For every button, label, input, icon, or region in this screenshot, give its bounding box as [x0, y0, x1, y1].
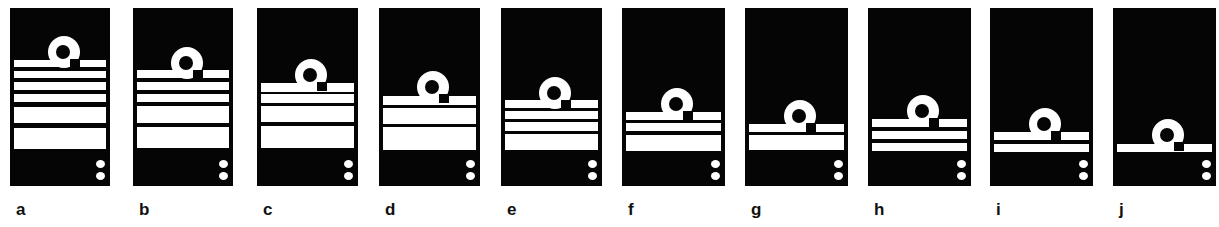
loop-notch: [929, 118, 939, 127]
stripe: [626, 135, 721, 151]
button-dot-icon: [219, 160, 228, 168]
panel-label: j: [1119, 200, 1124, 220]
button-dot-icon: [588, 160, 597, 168]
insignia-panel-f: [622, 8, 725, 186]
stripe: [137, 82, 229, 90]
loop-hole: [792, 109, 806, 123]
stripe: [505, 134, 598, 150]
loop-hole: [425, 80, 439, 94]
button-dot-icon: [1202, 160, 1211, 168]
loop-hole: [915, 104, 929, 118]
stripe: [872, 131, 967, 139]
button-dot-icon: [834, 172, 843, 180]
stripe: [383, 108, 476, 124]
loop-hole: [56, 45, 70, 59]
button-dot-icon: [834, 160, 843, 168]
loop-notch: [1174, 142, 1184, 151]
loop-icon: [295, 59, 327, 91]
button-dot-icon: [466, 172, 475, 180]
loop-icon: [661, 88, 693, 120]
stripe: [872, 143, 967, 151]
stripe: [505, 122, 598, 131]
button-dot-icon: [957, 172, 966, 180]
button-dot-icon: [96, 160, 105, 168]
button-dot-icon: [344, 160, 353, 168]
panel-label: h: [874, 200, 884, 220]
loop-notch: [70, 59, 80, 68]
panel-label: c: [263, 200, 272, 220]
insignia-panel-j: [1113, 8, 1216, 186]
stripe: [137, 94, 229, 102]
loop-notch: [439, 94, 449, 103]
panel-label: f: [628, 200, 634, 220]
insignia-panel-g: [745, 8, 848, 186]
stripe: [14, 82, 106, 90]
button-dot-icon: [1079, 160, 1088, 168]
panel-label: g: [751, 200, 761, 220]
stripe: [14, 128, 106, 149]
button-dot-icon: [344, 172, 353, 180]
loop-notch: [1051, 131, 1061, 140]
stripe: [137, 106, 229, 123]
button-dot-icon: [711, 160, 720, 168]
panel-label: d: [385, 200, 395, 220]
loop-notch: [193, 70, 203, 79]
loop-icon: [1029, 108, 1061, 140]
stripe: [261, 126, 354, 148]
stripe: [749, 135, 844, 150]
insignia-panel-c: [257, 8, 358, 186]
button-dot-icon: [711, 172, 720, 180]
stripe: [261, 106, 354, 122]
button-dot-icon: [1202, 172, 1211, 180]
loop-notch: [561, 100, 571, 109]
button-dot-icon: [957, 160, 966, 168]
button-dot-icon: [588, 172, 597, 180]
loop-icon: [784, 100, 816, 132]
stripe: [383, 127, 476, 150]
loop-icon: [171, 47, 203, 79]
button-dot-icon: [1079, 172, 1088, 180]
loop-icon: [1152, 119, 1184, 151]
panel-label: a: [16, 200, 25, 220]
loop-hole: [547, 86, 561, 100]
button-dot-icon: [219, 172, 228, 180]
stripe: [14, 94, 106, 102]
panel-label: e: [507, 200, 516, 220]
stripe: [626, 123, 721, 131]
stripe: [137, 127, 229, 148]
insignia-panel-e: [501, 8, 602, 186]
button-dot-icon: [466, 160, 475, 168]
loop-icon: [417, 71, 449, 103]
button-dot-icon: [96, 172, 105, 180]
loop-hole: [303, 68, 317, 82]
insignia-panel-h: [868, 8, 971, 186]
loop-icon: [539, 77, 571, 109]
loop-hole: [669, 97, 683, 111]
loop-notch: [806, 123, 816, 132]
loop-notch: [317, 82, 327, 91]
loop-hole: [1160, 128, 1174, 142]
loop-hole: [1037, 117, 1051, 131]
loop-icon: [907, 95, 939, 127]
stripe: [261, 94, 354, 103]
insignia-panel-i: [990, 8, 1093, 186]
insignia-panel-d: [379, 8, 480, 186]
loop-hole: [179, 56, 193, 70]
stripe: [994, 144, 1089, 152]
loop-icon: [48, 36, 80, 68]
insignia-panel-b: [133, 8, 233, 186]
stripe: [14, 107, 106, 123]
stripe: [14, 71, 106, 78]
panel-label: i: [996, 200, 1001, 220]
loop-notch: [683, 111, 693, 120]
insignia-panel-a: [10, 8, 110, 186]
stripe: [505, 111, 598, 119]
panel-label: b: [139, 200, 149, 220]
